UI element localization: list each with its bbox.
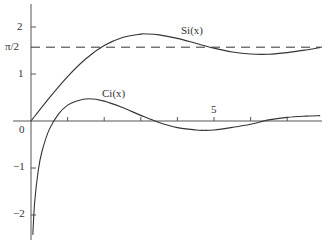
ci-series-label: Ci(x) (102, 88, 125, 99)
y-tick-label-minus-2: −2 (13, 208, 25, 219)
origin-label: 0 (19, 124, 25, 135)
ci-curve (33, 99, 320, 235)
y-tick-label-minus-1: −1 (13, 161, 25, 172)
y-tick-label-1: 1 (18, 68, 24, 79)
si-series-label: Si(x) (181, 25, 203, 36)
chart-plot (0, 0, 332, 249)
x-tick-label-5: 5 (211, 104, 217, 115)
y-tick-label-2: 2 (17, 21, 23, 32)
y-tick-label-pi-half: π/2 (5, 41, 19, 52)
